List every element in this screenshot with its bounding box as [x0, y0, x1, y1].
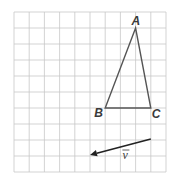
- triangle-abc: [105, 28, 151, 108]
- grid: [14, 12, 166, 172]
- vertex-label-c: C: [152, 107, 161, 121]
- vertex-label-a: A: [131, 14, 141, 28]
- vertex-label-b: B: [94, 106, 103, 120]
- coordinate-grid-diagram: A B C v: [0, 0, 170, 178]
- vector-arrowhead: [90, 150, 98, 156]
